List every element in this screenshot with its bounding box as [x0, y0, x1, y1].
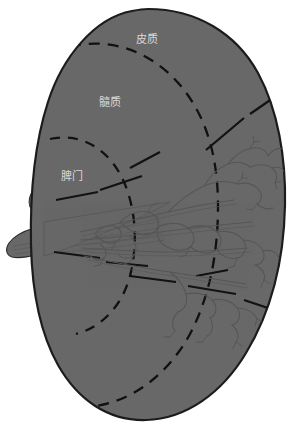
label-medulla: 髓质 — [99, 96, 122, 109]
spleen-diagram: 皮质 髓质 脾门 — [0, 0, 298, 432]
label-hilum: 脾门 — [61, 169, 84, 183]
diagram-canvas: 皮质 髓质 脾门 — [0, 0, 298, 432]
label-cortex: 皮质 — [136, 33, 159, 46]
